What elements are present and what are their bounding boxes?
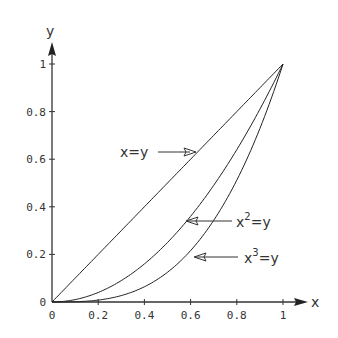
annotation-square: x2=y bbox=[186, 211, 271, 230]
y-axis-arrow-icon bbox=[48, 42, 56, 56]
x-tick-label: 0.2 bbox=[88, 309, 108, 322]
x-axis-arrow-icon bbox=[294, 298, 308, 306]
annotation-linear-text: x=y bbox=[120, 144, 148, 160]
y-tick-label: 0 bbox=[39, 296, 46, 309]
x-tick-label: 0 bbox=[49, 309, 56, 322]
annotation-cube-text: x3=y bbox=[244, 247, 279, 266]
ticks: 00.20.40.60.8100.20.40.60.81 bbox=[26, 58, 286, 322]
x-axis-label: x bbox=[311, 294, 319, 310]
y-tick-label: 0.6 bbox=[26, 153, 46, 166]
y-axis-label: y bbox=[46, 23, 54, 39]
x-tick-label: 0.4 bbox=[134, 309, 154, 322]
y-tick-label: 0.2 bbox=[26, 248, 46, 261]
curves bbox=[52, 64, 283, 302]
annotation-linear: x=y bbox=[120, 144, 196, 160]
y-tick-label: 1 bbox=[39, 58, 46, 71]
x-tick-label: 1 bbox=[280, 309, 287, 322]
y-tick-label: 0.8 bbox=[26, 106, 46, 119]
x-tick-label: 0.6 bbox=[181, 309, 201, 322]
annotation-square-text: x2=y bbox=[236, 211, 271, 230]
series-line-1 bbox=[52, 64, 283, 302]
x-tick-label: 0.8 bbox=[227, 309, 247, 322]
annotation-cube: x3=y bbox=[194, 247, 279, 266]
chart: x y 00.20.40.60.8100.20.40.60.81 x=y x2=… bbox=[0, 0, 338, 338]
y-tick-label: 0.4 bbox=[26, 201, 46, 214]
